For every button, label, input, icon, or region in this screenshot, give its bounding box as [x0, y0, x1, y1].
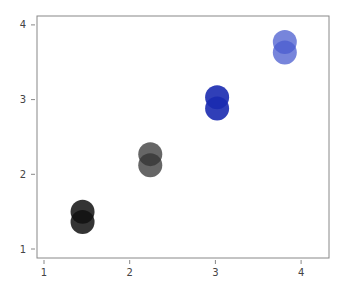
data-point [273, 41, 297, 65]
scatter-chart: 1234 1234 [0, 0, 345, 293]
y-axis: 1234 [20, 19, 35, 254]
x-tick-label: 4 [298, 267, 304, 278]
x-tick-label: 3 [212, 267, 218, 278]
y-tick-label: 4 [20, 19, 26, 30]
y-tick-label: 3 [20, 94, 26, 105]
data-point [205, 97, 229, 121]
data-points [71, 30, 297, 234]
x-axis: 1234 [41, 260, 304, 278]
data-point [138, 153, 162, 177]
x-tick-label: 1 [41, 267, 47, 278]
data-point [71, 210, 95, 234]
x-tick-label: 2 [127, 267, 133, 278]
y-tick-label: 2 [20, 169, 26, 180]
y-tick-label: 1 [20, 244, 26, 255]
